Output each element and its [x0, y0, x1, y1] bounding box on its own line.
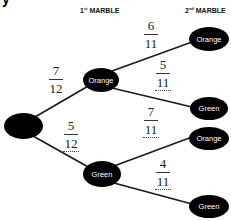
root-node — [4, 113, 43, 139]
fraction-orange-first: 7 12 — [44, 64, 68, 95]
fraction-denominator: 11 — [151, 76, 175, 89]
fraction-bar — [144, 120, 158, 121]
fraction-bar — [156, 172, 170, 173]
node-second-green-after-green: Green — [189, 195, 229, 218]
fraction-bar — [64, 134, 78, 135]
answer-dotted-line — [143, 137, 159, 138]
answer-dotted-line — [155, 90, 171, 91]
fraction-denominator: 12 — [44, 82, 68, 95]
fraction-numerator: 7 — [139, 105, 163, 119]
answer-dotted-line — [155, 189, 171, 190]
fraction-orange-after-green: 7 11 — [139, 105, 163, 138]
fraction-numerator: 7 — [44, 64, 68, 78]
fraction-numerator: 4 — [151, 157, 175, 171]
fraction-bar — [49, 79, 63, 80]
fraction-green-first: 5 12 — [59, 119, 83, 152]
fraction-numerator: 5 — [151, 58, 175, 72]
node-first-green: Green — [83, 161, 121, 187]
fraction-orange-after-orange: 6 11 — [139, 19, 163, 50]
fraction-numerator: 5 — [59, 119, 83, 133]
answer-dotted-line — [63, 151, 79, 152]
node-second-orange-after-orange: Orange — [189, 27, 229, 51]
fraction-denominator: 11 — [139, 37, 163, 50]
fraction-green-after-green: 4 11 — [151, 157, 175, 190]
fraction-denominator: 11 — [139, 123, 163, 136]
fraction-green-after-orange: 5 11 — [151, 58, 175, 91]
fraction-numerator: 6 — [139, 19, 163, 33]
node-first-orange: Orange — [83, 68, 119, 92]
fraction-bar — [156, 73, 170, 74]
node-second-green-after-orange: Green — [190, 97, 228, 120]
fraction-bar — [144, 34, 158, 35]
fraction-denominator: 11 — [151, 175, 175, 188]
fraction-denominator: 12 — [59, 137, 83, 150]
node-second-orange-after-green: Orange — [189, 127, 229, 150]
